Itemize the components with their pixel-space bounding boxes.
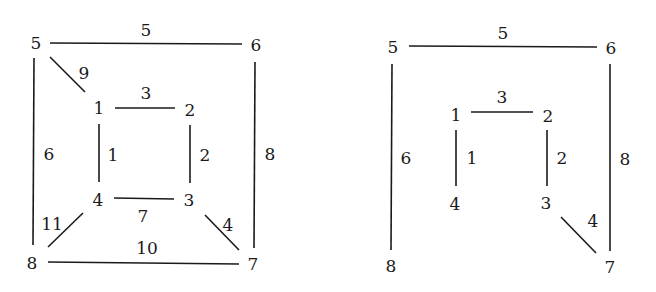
edge-weight-label: 7	[138, 206, 149, 226]
node-1: 1	[94, 98, 105, 118]
edge-weight-label: 1	[108, 145, 119, 165]
node-7: 7	[248, 254, 259, 274]
node-3: 3	[541, 193, 552, 213]
edge-5-6	[50, 43, 242, 44]
node-5: 5	[31, 33, 42, 53]
node-4: 4	[93, 190, 104, 210]
edge-weight-label: 4	[223, 215, 234, 235]
edge-weight-label: 5	[498, 23, 509, 43]
graph-diagram: 593127114106812345678 531246812345678	[0, 0, 656, 292]
edge-5-8	[33, 58, 34, 245]
edge-weight-label: 3	[141, 83, 152, 103]
edge-weight-label: 2	[200, 145, 211, 165]
edge-weight-label: 8	[265, 144, 276, 164]
edge-weight-label: 2	[557, 148, 568, 168]
node-2: 2	[185, 100, 196, 120]
node-2: 2	[543, 106, 554, 126]
edge-6-7	[254, 62, 255, 248]
edge-weight-label: 11	[41, 214, 63, 234]
edge-weight-label: 10	[136, 238, 158, 258]
edge-weight-label: 8	[620, 149, 631, 169]
edge-weight-label: 3	[497, 87, 508, 107]
edge-weight-label: 1	[467, 148, 478, 168]
edge-weight-label: 6	[44, 144, 55, 164]
node-5: 5	[388, 37, 399, 57]
node-6: 6	[251, 35, 262, 55]
node-1: 1	[451, 105, 462, 125]
edge-4-3	[114, 198, 174, 199]
edge-weight-label: 4	[588, 211, 599, 231]
edge-5-6	[409, 46, 597, 47]
spanning-tree: 531246812345678	[386, 23, 631, 277]
edge-weight-label: 5	[141, 20, 152, 40]
diagram-canvas: 593127114106812345678 531246812345678	[0, 0, 656, 292]
edge-weight-label: 9	[79, 63, 90, 83]
edge-5-8	[391, 64, 392, 250]
edge-weight-label: 6	[401, 148, 412, 168]
node-7: 7	[605, 257, 616, 277]
node-6: 6	[606, 38, 617, 58]
node-3: 3	[184, 190, 195, 210]
full-graph: 593127114106812345678	[27, 20, 276, 274]
node-4: 4	[450, 194, 461, 214]
node-8: 8	[27, 253, 38, 273]
edge-8-7	[48, 262, 239, 264]
node-8: 8	[386, 256, 397, 276]
